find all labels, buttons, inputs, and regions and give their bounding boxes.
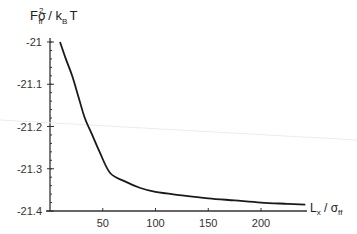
y-tick-label: -21 [26,36,42,48]
y-tick-label: -21.3 [17,163,42,175]
y-axis-label: Fσ2ff / kBT [30,8,77,26]
y-label-sub2: B [62,17,67,26]
y-label-end: T [69,8,77,23]
x-tick-label: 150 [199,217,217,229]
x-axis-label: Lx / σff [310,201,342,217]
x-tick-label: 50 [97,217,109,229]
chart-canvas: -21-21.1-21.2-21.3-21.450100150200 [0,0,357,234]
y-label-sub: ff [38,17,42,26]
y-label-rest: / k [45,8,62,23]
y-tick-label: -21.1 [17,78,42,90]
x-label-main: L [310,201,317,215]
x-label-mid: / σ [321,201,338,215]
x-tick-label: 200 [252,217,270,229]
scan-artifact-line [0,120,357,140]
data-curve [60,42,305,205]
x-tick-label: 100 [146,217,164,229]
y-tick-label: -21.4 [17,205,42,217]
x-label-sub2: ff [338,208,342,217]
y-label-sup: 2 [39,6,43,15]
